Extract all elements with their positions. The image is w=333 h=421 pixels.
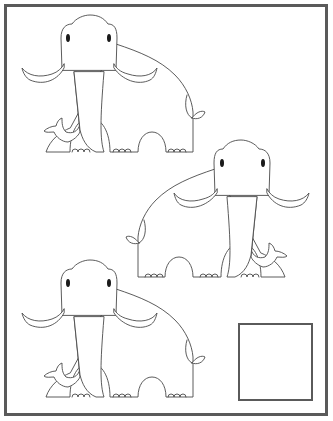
mammoth-1-icon[interactable] [22,15,205,152]
mammoth-2-mirrored-icon[interactable] [126,140,309,277]
worksheet-page [0,0,333,421]
answer-box[interactable] [238,323,313,401]
mammoth-3-icon[interactable] [22,260,205,397]
